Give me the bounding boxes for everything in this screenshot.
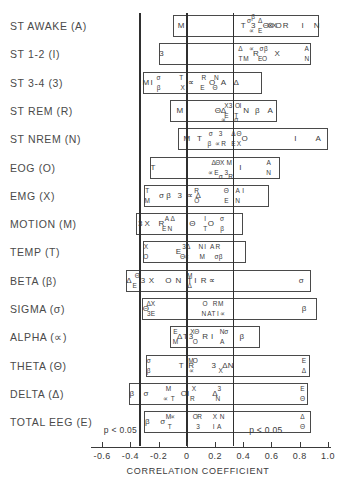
bar-annotation: ∝ [221, 117, 226, 124]
bar-annotation: O [262, 56, 267, 63]
axis-baseline [91, 447, 331, 448]
bar-annotation: σ [159, 192, 164, 200]
bar-annotation: X [180, 84, 184, 91]
row-label: TEMP (T) [10, 246, 60, 258]
bar-annotation: σ [157, 74, 161, 81]
bar-annotation: E [224, 198, 228, 205]
axis-tick-label: 0.8 [293, 451, 307, 461]
bar-annotation: ∝ [209, 277, 215, 285]
row-label: SIGMA (σ) [10, 303, 65, 315]
bar-annotation: E [200, 84, 204, 91]
bar-annotation: M [173, 339, 178, 346]
bar-annotation: A [235, 188, 239, 195]
bar-annotation: M [226, 159, 231, 166]
bar-annotation: 3 [141, 277, 145, 285]
reference-line-zero [186, 13, 188, 446]
bar-annotation: R [215, 244, 220, 251]
axis-tick [300, 442, 301, 447]
row-label: MOTION (M) [10, 218, 77, 230]
bar-annotation: T [179, 74, 183, 81]
bar-annotation: Δ [171, 216, 175, 223]
bar-annotation: β [264, 46, 268, 53]
bar-annotation: I [240, 103, 242, 110]
bar-annotation: E [300, 386, 304, 393]
bar-annotation: R [221, 141, 226, 148]
row-label: BETA (β) [10, 275, 57, 287]
row-label: THETA (Θ) [10, 360, 67, 372]
bar-annotation: Θ [224, 188, 229, 195]
bar-annotation: I [211, 333, 213, 341]
range-bar [143, 241, 246, 263]
bar-annotation: T [145, 188, 149, 195]
bar-annotation: M [176, 107, 183, 115]
bar-annotation: T [241, 22, 246, 30]
bar-annotation: I [213, 424, 215, 431]
bar-annotation: I [301, 22, 303, 30]
bar-annotation: A [210, 244, 214, 251]
bar-annotation: M [145, 198, 150, 205]
bar-annotation: β [129, 390, 134, 398]
bar-annotation: β [251, 13, 255, 20]
bar-annotation: O [193, 339, 198, 346]
bar-annotation: X [151, 301, 155, 308]
bar-annotation: β [145, 418, 150, 426]
bar-annotation: β [302, 305, 307, 313]
row-label: EMG (X) [10, 190, 55, 202]
bar-annotation: 3 [219, 131, 223, 138]
bar-annotation: σ [234, 117, 238, 124]
bar-annotation: β [208, 141, 212, 148]
bar-annotation: R [213, 301, 218, 308]
bar-annotation: σ [160, 418, 165, 426]
bar-annotation: E [162, 226, 166, 233]
bar-annotation: N [266, 169, 271, 176]
bar-annotation: Δ [126, 277, 131, 285]
bar-annotation: A [165, 216, 169, 223]
bar-annotation: N [220, 414, 225, 421]
bar-annotation: O [242, 135, 248, 143]
row-label: DELTA (Δ) [10, 388, 64, 400]
bar-annotation: Θ [300, 424, 305, 431]
axis-tick [159, 442, 160, 447]
bar-annotation: σ [299, 277, 304, 285]
bar-annotation: ∝ [188, 79, 194, 87]
bar-annotation: M [178, 22, 185, 30]
bar-annotation: R [190, 396, 195, 403]
bar-annotation: R [202, 333, 208, 341]
bar-annotation: A [315, 135, 320, 143]
bar-annotation: β [157, 84, 161, 91]
bar-annotation: I [204, 216, 206, 223]
row-label: TOTAL EEG (E) [10, 416, 92, 428]
axis-tick-label: 1.0 [321, 451, 335, 461]
bar-annotation: ∝ [220, 311, 225, 318]
bar-annotation: 3 [196, 424, 200, 431]
bar-annotation: Δ [258, 18, 262, 25]
bar-annotation: Δ [302, 367, 306, 374]
row-label: ST 1-2 (I) [10, 48, 60, 60]
bar-annotation: I [204, 244, 206, 251]
bar-annotation: σ [143, 390, 148, 398]
axis-tick-label: 0.4 [236, 451, 250, 461]
row-label: ST NREM (N) [10, 133, 81, 145]
bar-annotation: β [147, 367, 151, 374]
bar-annotation: M [166, 386, 171, 393]
bar-annotation: X [213, 414, 217, 421]
bar-annotation: E [302, 357, 306, 364]
bar-annotation: Θ [189, 220, 195, 228]
bar-annotation: X [220, 159, 224, 166]
row-label: ST 3-4 (3) [10, 77, 63, 89]
bar-annotation: Δ [300, 414, 304, 421]
bar-annotation: N [168, 226, 173, 233]
bar-annotation: E [258, 28, 262, 35]
bar-annotation: T [238, 56, 242, 63]
axis-tick [328, 442, 329, 447]
bar-annotation: O [165, 277, 171, 285]
bar-annotation: A [267, 107, 272, 115]
bar-annotation: I [150, 79, 152, 87]
bar-annotation: ∝ [189, 367, 194, 374]
bar-annotation: M [218, 301, 223, 308]
bar-annotation: ∝ [215, 141, 220, 148]
bar-annotation: A [305, 46, 309, 53]
x-axis-title: CORRELATION COEFFICIENT [127, 466, 270, 476]
axis-tick-label: -0.4 [122, 451, 139, 461]
bar-annotation: β [166, 192, 171, 200]
